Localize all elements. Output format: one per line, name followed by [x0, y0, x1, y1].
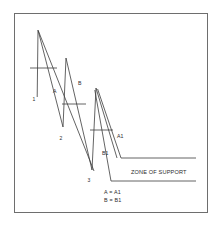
- trough-2-label: 2: [60, 135, 63, 141]
- trough-3-label: 3: [88, 177, 91, 183]
- leg-a-label: A: [53, 88, 57, 94]
- legend-b-equals-b1: B = B1: [104, 197, 122, 203]
- trough-1-riser-line: [37, 30, 38, 97]
- peak-2-descent-line: [66, 58, 92, 170]
- trough-1-label: 1: [33, 96, 36, 102]
- peak-1-descent-line: [38, 30, 63, 127]
- technical-analysis-figure: 1 2 3 A B A1 B1 ZONE OF SUPPORT A = A1 B…: [0, 0, 222, 228]
- leg-a1-label: A1: [117, 133, 123, 139]
- zone-of-support-label: ZONE OF SUPPORT: [131, 169, 187, 175]
- leg-b1-label: B1: [102, 150, 108, 156]
- chart-canvas: 1 2 3 A B A1 B1 ZONE OF SUPPORT A = A1 B…: [0, 0, 222, 228]
- legend-a-equals-a1: A = A1: [104, 189, 121, 195]
- trough-2-riser-line: [63, 58, 66, 127]
- leg-b-label: B: [78, 80, 82, 86]
- trough-3-riser-line: [92, 88, 96, 170]
- trendline-a-line: [38, 31, 94, 171]
- peak-3-descent-line: [96, 88, 117, 158]
